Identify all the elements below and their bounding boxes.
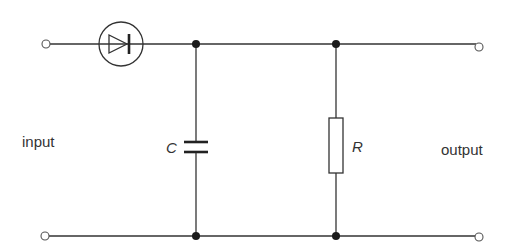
junction-top-right bbox=[332, 40, 340, 48]
capacitor-branch bbox=[184, 44, 208, 236]
junction-bottom-right bbox=[332, 232, 340, 240]
output-label: output bbox=[441, 141, 484, 158]
junction-bottom-left bbox=[192, 232, 200, 240]
input-terminal-top bbox=[42, 40, 50, 48]
resistor-branch bbox=[329, 44, 343, 236]
diode-symbol bbox=[99, 22, 143, 66]
circuit-diagram: input output C R bbox=[0, 0, 506, 252]
output-terminal-top bbox=[475, 43, 483, 51]
input-terminal-bottom bbox=[41, 232, 49, 240]
capacitor-label: C bbox=[166, 139, 177, 156]
output-terminal-bottom bbox=[475, 233, 483, 241]
junction-top-left bbox=[192, 40, 200, 48]
resistor-body bbox=[329, 118, 343, 173]
resistor-label: R bbox=[352, 138, 363, 155]
input-label: input bbox=[22, 133, 55, 150]
